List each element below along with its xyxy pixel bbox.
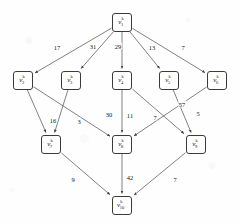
node-label-subscript: 2 bbox=[22, 80, 24, 85]
graph-edge-v2-to-v8 bbox=[34, 87, 111, 136]
graph-edge-v1-to-v3 bbox=[81, 32, 113, 69]
node-label-subscript: 9 bbox=[195, 144, 197, 149]
node-label-subscript: 8 bbox=[121, 144, 123, 149]
graph-edge-v3-to-v7 bbox=[55, 90, 68, 133]
graph-edge-v7-to-v10 bbox=[62, 153, 111, 195]
graph-node-label-v1: vk1 bbox=[118, 19, 126, 26]
graph-node-label-v4: vk4 bbox=[118, 77, 126, 84]
graph-node-label-v2: vk2 bbox=[19, 77, 27, 84]
edge-weight-v5-to-v9: 57 bbox=[178, 101, 186, 108]
node-label-subscript: 4 bbox=[121, 80, 123, 85]
graph-node-label-v3: vk3 bbox=[67, 77, 75, 84]
graph-edge-v1-to-v6 bbox=[133, 28, 206, 72]
node-label-superscript: k bbox=[121, 16, 123, 21]
node-label-superscript: k bbox=[70, 74, 72, 79]
node-label-subscript: 7 bbox=[50, 144, 52, 149]
edge-weight-v1-to-v6: 7 bbox=[181, 44, 185, 51]
edge-weight-v2-to-v7: 16 bbox=[49, 117, 57, 124]
graph-node-v7[interactable]: vk7 bbox=[41, 135, 61, 154]
node-label-superscript: k bbox=[195, 138, 197, 143]
graph-node-v2[interactable]: vk2 bbox=[13, 71, 33, 90]
edge-weight-v1-to-v3: 31 bbox=[89, 43, 97, 50]
graph-node-v3[interactable]: vk3 bbox=[61, 71, 81, 90]
graph-edge-v9-to-v10 bbox=[134, 153, 186, 195]
node-label-subscript: 5 bbox=[168, 80, 170, 85]
node-label-subscript: 1 bbox=[121, 22, 123, 27]
graph-edge-v4-to-v9 bbox=[133, 89, 185, 134]
edge-weight-v1-to-v5: 13 bbox=[148, 44, 156, 51]
node-label-superscript: k bbox=[120, 199, 122, 204]
edge-weight-v2-to-v8: 30 bbox=[105, 111, 113, 118]
edges-group bbox=[27, 28, 206, 195]
node-label-subscript: 6 bbox=[216, 80, 218, 85]
graph-node-v6[interactable]: vk6 bbox=[207, 71, 227, 90]
edge-weight-v6-to-v8: 5 bbox=[196, 110, 200, 117]
graph-node-label-v7: vk7 bbox=[47, 141, 55, 148]
graph-figure: vk1vk2vk3vk4vk5vk6vk7vk8vk9vk10 17312913… bbox=[0, 0, 241, 224]
edge-weight-v1-to-v4: 29 bbox=[114, 43, 122, 50]
graph-node-v4[interactable]: vk4 bbox=[112, 71, 132, 90]
edge-weight-v7-to-v10: 9 bbox=[71, 176, 75, 183]
edge-weight-v8-to-v10: 42 bbox=[126, 174, 134, 181]
node-label-superscript: k bbox=[121, 74, 123, 79]
graph-edge-v1-to-v2 bbox=[35, 28, 112, 73]
edge-weight-v4-to-v8: 11 bbox=[126, 112, 133, 119]
graph-node-v5[interactable]: vk5 bbox=[159, 71, 179, 90]
edge-layer bbox=[0, 0, 241, 224]
node-label-superscript: k bbox=[121, 138, 123, 143]
graph-node-label-v10: vk10 bbox=[117, 202, 127, 209]
graph-node-label-v9: vk9 bbox=[192, 141, 200, 148]
node-label-superscript: k bbox=[22, 74, 24, 79]
edge-weight-v3-to-v7: 3 bbox=[77, 118, 81, 125]
node-label-superscript: k bbox=[168, 74, 170, 79]
edge-weight-v1-to-v2: 17 bbox=[53, 44, 61, 51]
node-label-superscript: k bbox=[216, 74, 218, 79]
graph-node-v1[interactable]: vk1 bbox=[112, 13, 132, 32]
node-label-superscript: k bbox=[50, 138, 52, 143]
edge-weight-v9-to-v10: 7 bbox=[173, 176, 177, 183]
graph-edge-v2-to-v7 bbox=[27, 90, 46, 133]
graph-node-label-v8: vk8 bbox=[118, 141, 126, 148]
graph-node-v10[interactable]: vk10 bbox=[112, 196, 132, 215]
edge-weight-v4-to-v9: 7 bbox=[153, 114, 157, 121]
graph-node-label-v5: vk5 bbox=[165, 77, 173, 84]
graph-node-v9[interactable]: vk9 bbox=[186, 135, 206, 154]
graph-node-v8[interactable]: vk8 bbox=[112, 135, 132, 154]
node-label-subscript: 3 bbox=[70, 80, 72, 85]
graph-node-label-v6: vk6 bbox=[213, 77, 221, 84]
node-label-subscript: 10 bbox=[120, 205, 125, 210]
graph-edge-v5-to-v9 bbox=[173, 90, 191, 133]
